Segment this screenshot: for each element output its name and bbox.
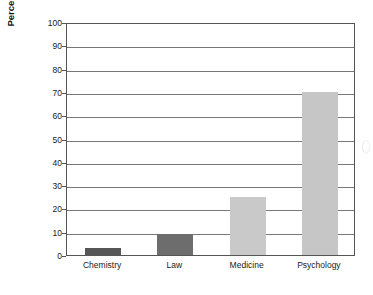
bar-chart-figure: Percentage gain in statistical reasoning… — [0, 0, 373, 295]
y-tick-label: 100 — [36, 19, 62, 27]
y-tick-label: 30 — [36, 182, 62, 190]
gridline — [67, 47, 354, 48]
bar — [302, 92, 338, 255]
y-tick-label: 0 — [36, 252, 62, 260]
y-tick-label: 40 — [36, 159, 62, 167]
y-tick-label: 90 — [36, 42, 62, 50]
y-tick-label: 10 — [36, 229, 62, 237]
x-tick-label: Law — [138, 260, 210, 270]
y-tick-mark — [62, 256, 66, 257]
x-tick-label: Chemistry — [66, 260, 138, 270]
x-tick-label: Psychology — [283, 260, 355, 270]
plot-area — [66, 23, 355, 256]
y-tick-label: 80 — [36, 66, 62, 74]
y-tick-label: 60 — [36, 112, 62, 120]
gridline — [67, 71, 354, 72]
y-tick-label: 50 — [36, 136, 62, 144]
x-tick-label: Medicine — [211, 260, 283, 270]
y-axis-title: Percentage gain in statistical reasoning — [2, 0, 20, 54]
scan-artifact — [362, 140, 370, 154]
bar — [230, 197, 266, 255]
bar — [85, 248, 121, 255]
y-tick-label: 20 — [36, 205, 62, 213]
y-tick-label: 70 — [36, 89, 62, 97]
bar — [157, 234, 193, 255]
